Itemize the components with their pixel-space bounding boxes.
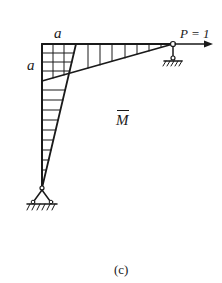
column-hatching [42,53,74,170]
moment-symbol: M [116,112,129,128]
dimension-label-left: a [27,58,35,73]
load-arrow [175,41,213,48]
dimension-label-top: a [54,26,62,41]
column-moment-boundary [42,44,76,188]
moment-diagram [0,0,222,283]
figure-caption: (c) [114,263,128,276]
moment-label: M [116,113,129,128]
base-pin-support [27,186,57,210]
overline [117,110,129,111]
load-label: P = 1 [180,27,209,40]
